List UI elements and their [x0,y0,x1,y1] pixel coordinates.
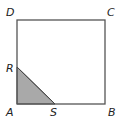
square-diagram: D C R A S B [0,0,122,117]
label-R: R [6,62,14,75]
label-C: C [107,6,115,19]
label-B: B [108,106,116,117]
label-S: S [50,106,57,117]
label-D: D [6,6,14,19]
label-A: A [5,106,14,117]
